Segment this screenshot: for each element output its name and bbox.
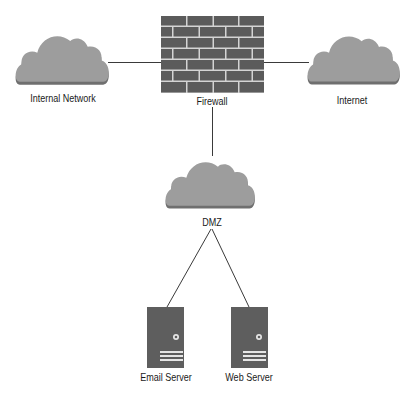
firewall-label: Firewall xyxy=(196,95,227,107)
dmz-cloud-icon xyxy=(166,162,255,208)
web-server-label: Web Server xyxy=(225,371,272,383)
internal-network-cloud-icon xyxy=(16,36,109,84)
internet-label: Internet xyxy=(337,94,368,106)
internet-cloud-icon xyxy=(308,36,400,84)
firewall-icon xyxy=(161,16,264,93)
edge-dmz-email xyxy=(167,229,211,307)
email-server-label: Email Server xyxy=(140,371,192,383)
web-server-icon xyxy=(231,307,268,368)
internal-network-label: Internal Network xyxy=(30,92,96,104)
edge-dmz-web xyxy=(212,229,249,307)
network-diagram xyxy=(0,0,419,396)
dmz-label: DMZ xyxy=(202,216,222,228)
email-server-icon xyxy=(147,307,184,368)
